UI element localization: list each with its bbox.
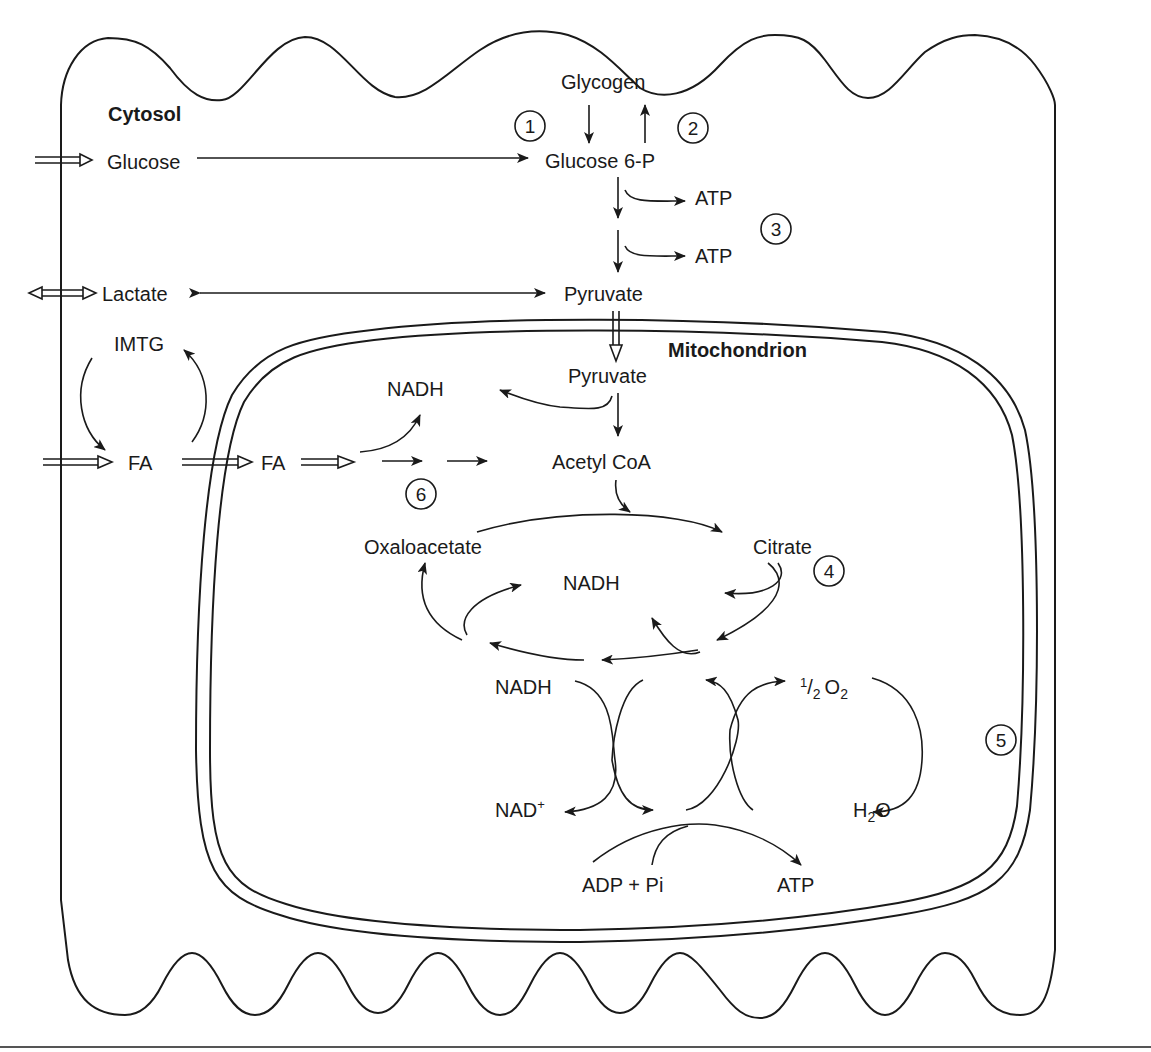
adp-to-atp-arrow: [593, 824, 801, 865]
pyruvate-cytosol-label: Pyruvate: [564, 283, 643, 305]
svg-text:3: 3: [771, 219, 782, 240]
svg-text:4: 4: [824, 561, 835, 582]
fa-to-imtg-arrow: [184, 350, 206, 442]
atp-branch-arrow-1: [625, 190, 685, 201]
svg-text:6: 6: [416, 484, 427, 505]
step-6-badge: 6: [406, 479, 436, 509]
atp-label-2: ATP: [695, 245, 732, 267]
acetylcoa-to-cycle-arrow: [616, 480, 630, 512]
pyruvate-transport-arrow: [610, 311, 622, 361]
svg-text:1: 1: [525, 116, 536, 137]
atp-mito-label: ATP: [777, 874, 814, 896]
glucose6p-label: Glucose 6-P: [545, 150, 655, 172]
citrate-to-next-arrow: [717, 563, 779, 640]
atp-label-1: ATP: [695, 187, 732, 209]
svg-text:5: 5: [996, 730, 1007, 751]
etc-crossing-arrow-3: [730, 681, 785, 810]
fa-cytosol-label: FA: [261, 452, 286, 474]
nadh-top-label: NADH: [387, 378, 444, 400]
cycle-bottom-arrow-1: [602, 650, 698, 660]
mitochondrion-outer-membrane: [196, 320, 1037, 942]
pyruvate-mito-label: Pyruvate: [568, 365, 647, 387]
beta-oxidation-nadh-arrow: [360, 415, 420, 452]
acetyl-coa-label: Acetyl CoA: [552, 451, 652, 473]
half-o2-label: 1/2O2: [800, 675, 848, 702]
step-5-badge: 5: [986, 725, 1016, 755]
step-3-badge: 3: [761, 214, 791, 244]
atp-branch-arrow-2: [625, 246, 685, 256]
cycle-nadh-branch-arrow-2: [652, 618, 700, 654]
h2o-label: H2O: [853, 799, 891, 825]
cycle-to-oxaloacetate-arrow: [422, 563, 462, 640]
nad-plus-label: NAD+: [495, 797, 545, 821]
pi-branch-line: [652, 826, 688, 865]
metabolism-diagram: Cytosol Mitochondrion Glycogen Glucose G…: [0, 0, 1151, 1052]
adp-pi-label: ADP + Pi: [582, 874, 663, 896]
imtg-label: IMTG: [114, 333, 164, 355]
cycle-bottom-arrow-2: [490, 643, 584, 660]
nadh-to-nad-arrow: [565, 681, 616, 812]
fa-outer-label: FA: [128, 452, 153, 474]
nadh-etc-label: NADH: [495, 676, 552, 698]
step-1-badge: 1: [515, 111, 545, 141]
cycle-nadh-branch-arrow-3: [464, 585, 521, 635]
glucose-transport-arrow: [35, 154, 92, 166]
mitochondrion-label: Mitochondrion: [668, 339, 807, 361]
citrate-label: Citrate: [753, 536, 812, 558]
lactate-transport-arrow: [29, 287, 96, 299]
o2-to-h2o-arrow: [872, 678, 922, 812]
nadh-cycle-label: NADH: [563, 572, 620, 594]
etc-crossing-arrow-1: [612, 680, 653, 810]
lactate-label: Lactate: [102, 283, 168, 305]
fa-outer-transport-arrow: [43, 456, 112, 468]
pyruvate-nadh-branch-arrow: [500, 390, 612, 409]
cell-membrane: [61, 31, 1055, 1018]
fa-beta-oxidation-arrow: [301, 456, 354, 468]
cytosol-label: Cytosol: [108, 103, 181, 125]
svg-text:2: 2: [688, 118, 699, 139]
oxaloacetate-label: Oxaloacetate: [364, 536, 482, 558]
fa-mito-transport-arrow: [182, 456, 252, 468]
glycogen-label: Glycogen: [561, 71, 646, 93]
step-2-badge: 2: [678, 113, 708, 143]
oxaloacetate-to-citrate-arrow: [477, 514, 722, 532]
mitochondrion-inner-membrane: [210, 330, 1023, 930]
glucose-label: Glucose: [107, 151, 180, 173]
step-4-badge: 4: [814, 556, 844, 586]
imtg-to-fa-arrow: [81, 358, 105, 450]
